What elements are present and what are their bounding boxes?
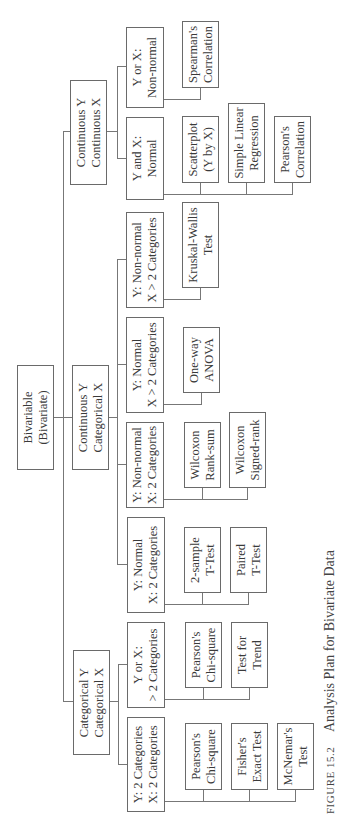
- branch-continuous-categorical: Continuous Y Categorical X: [72, 365, 109, 470]
- test-pearsons-correlation: Pearson's Correlation: [274, 116, 311, 183]
- test-mcnemars: McNemar's Test: [277, 723, 314, 790]
- test-wilcoxon-ranksum: Wilcoxon Rank-sum: [184, 422, 221, 488]
- connector-line: [117, 259, 126, 260]
- connector-line: [248, 593, 249, 605]
- test-for-trend: Test for Trend: [231, 622, 268, 688]
- connector-line: [117, 364, 126, 365]
- connector-line: [202, 488, 203, 500]
- test-simple-linear-regression: Simple Linear Regression: [228, 103, 265, 183]
- connector-line: [63, 701, 73, 702]
- node-ynormal-x2: Y: Normal X: 2 Categories: [127, 517, 165, 613]
- connector-line: [63, 131, 70, 132]
- test-wilcoxon-signedrank: Wilcoxon Signed-rank: [229, 412, 266, 488]
- connector-line: [109, 417, 117, 418]
- diagram-canvas: Bivariable (Bivariate) Categorical Y Cat…: [0, 0, 341, 822]
- root-node: Bivariable (Bivariate): [17, 365, 54, 470]
- connector-line: [164, 499, 248, 500]
- test-oneway-anova: One-way ANOVA: [183, 327, 220, 393]
- connector-line: [117, 464, 126, 465]
- connector-line: [117, 158, 126, 159]
- figure-caption: FIGURE 15.2 Analysis Plan for Bivariate …: [322, 550, 338, 814]
- connector-line: [165, 801, 296, 802]
- connector-line: [295, 790, 296, 802]
- connector-line: [246, 183, 247, 195]
- connector-line: [292, 183, 293, 195]
- connector-line: [202, 593, 203, 605]
- connector-line: [164, 299, 201, 300]
- connector-line: [247, 488, 248, 500]
- connector-line: [117, 260, 118, 565]
- connector-line: [164, 99, 201, 100]
- connector-line: [117, 67, 118, 159]
- test-paired-ttest: Paired T-Test: [230, 527, 267, 593]
- connector-line: [200, 88, 201, 100]
- test-kruskal-wallis: Kruskal-Wallis Test: [182, 202, 219, 288]
- connector-line: [249, 688, 250, 700]
- connector-line: [107, 131, 117, 132]
- branch-continuous-continuous: Continuous Y Continuous X: [70, 80, 107, 185]
- connector-line: [118, 665, 119, 765]
- connector-line: [164, 404, 201, 405]
- node-yorx-nonnormal: Y or X: Non-normal: [126, 27, 164, 108]
- connector-line: [110, 701, 118, 702]
- connector-line: [200, 288, 201, 300]
- connector-line: [201, 393, 202, 405]
- connector-line: [165, 699, 250, 700]
- test-pearsons-chisquare-2x2: Pearson's Chi-square: [185, 723, 222, 790]
- test-scatterplot: Scatterplot (Y by X): [182, 116, 219, 183]
- test-2sample-ttest: 2-sample T-Test: [184, 527, 221, 593]
- figure-title: Analysis Plan for Bivariate Data: [322, 550, 337, 732]
- connector-line: [164, 194, 293, 195]
- node-ynonnormal-x2: Y: Non-normal X: 2 Categories: [126, 422, 164, 508]
- test-fishers-exact: Fisher's Exact Test: [231, 723, 268, 790]
- test-spearmans-correlation: Spearman's Correlation: [182, 21, 219, 88]
- connector-line: [63, 417, 72, 418]
- node-ynormal-xgt2: Y: Normal X > 2 Categories: [126, 317, 164, 413]
- connector-line: [118, 764, 127, 765]
- test-pearsons-chisquare-gt2: Pearson's Chi-square: [185, 622, 222, 688]
- node-ynonnormal-xgt2: Y: Non-normal X > 2 Categories: [126, 212, 164, 308]
- node-yorx-gt2: Y or X: > 2 Categories: [127, 622, 165, 708]
- connector-line: [203, 688, 204, 700]
- figure-number: FIGURE 15.2: [324, 747, 336, 814]
- node-y2-x2: Y: 2 Categories X: 2 Categories: [127, 717, 165, 812]
- branch-categorical-categorical: Categorical Y Categorical X: [73, 650, 110, 755]
- connector-line: [117, 564, 127, 565]
- connector-line: [118, 664, 127, 665]
- connector-line: [117, 66, 126, 67]
- connector-line: [200, 183, 201, 195]
- connector-line: [165, 604, 249, 605]
- connector-line: [54, 417, 63, 418]
- connector-line: [203, 790, 204, 802]
- node-yandx-normal: Y and X: Normal: [126, 117, 164, 200]
- connector-line: [249, 790, 250, 802]
